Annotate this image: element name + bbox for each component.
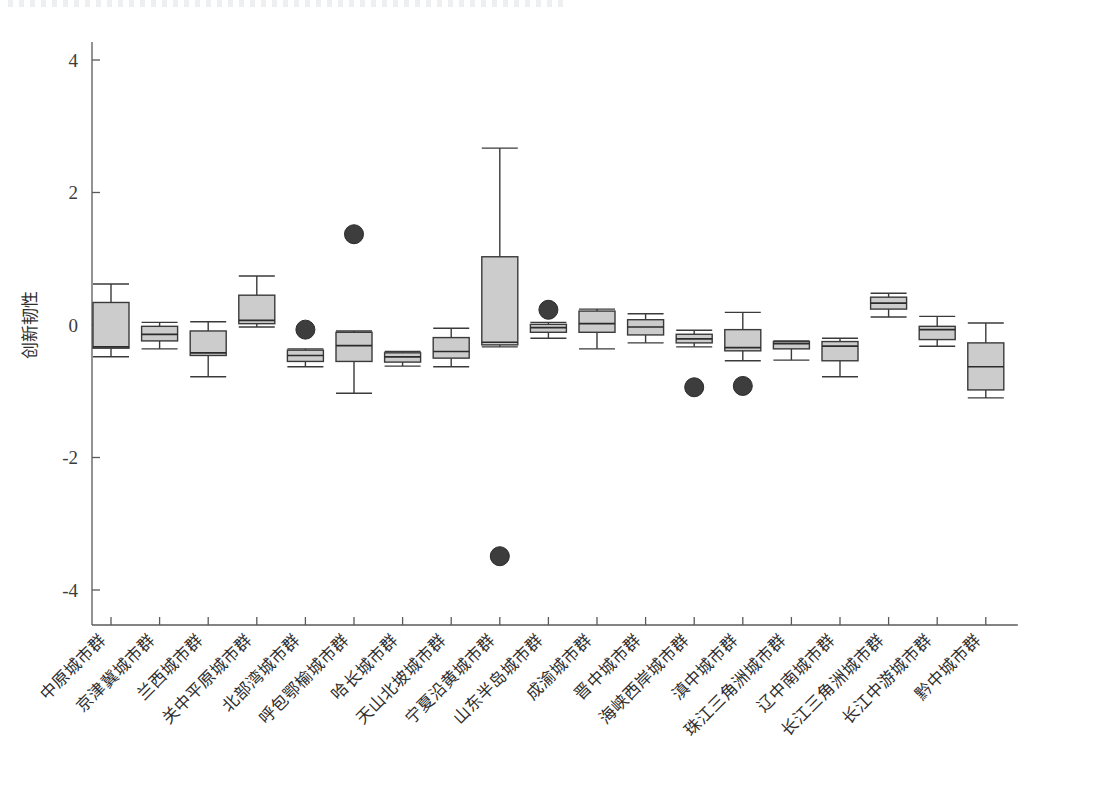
boxplot-group: [239, 276, 275, 625]
boxplot-group: [968, 323, 1004, 625]
outlier-point[interactable]: [685, 378, 704, 397]
outlier-point[interactable]: [345, 225, 364, 244]
y-tick-label: 2: [69, 182, 79, 203]
boxplot-group: [919, 316, 955, 625]
y-tick-label: 0: [69, 315, 79, 336]
boxplot-group: [676, 330, 712, 625]
boxplot-group: [773, 341, 809, 625]
outlier-point[interactable]: [539, 300, 558, 319]
box-iqr[interactable]: [482, 257, 518, 345]
y-axis-title: 创新韧性: [20, 291, 40, 359]
outlier-point[interactable]: [733, 376, 752, 395]
boxplot-group: [871, 293, 907, 625]
boxplot-group: [93, 284, 129, 625]
boxplot-group: [628, 314, 664, 625]
box-iqr[interactable]: [919, 326, 955, 339]
box-iqr[interactable]: [773, 342, 809, 349]
boxplot-group: [579, 309, 615, 625]
outlier-point[interactable]: [296, 320, 315, 339]
boxplot-group: [142, 322, 178, 625]
boxplot-group: [482, 148, 518, 625]
boxplot-chart: 420-2-4创新韧性中原城市群京津冀城市群兰西城市群关中平原城市群北部湾城市群…: [0, 0, 1105, 799]
y-tick-label: -4: [62, 580, 78, 601]
y-tick-label: -2: [62, 447, 78, 468]
outlier-point[interactable]: [490, 547, 509, 566]
boxplot-figure: 420-2-4创新韧性中原城市群京津冀城市群兰西城市群关中平原城市群北部湾城市群…: [0, 0, 1105, 799]
box-iqr[interactable]: [822, 342, 858, 361]
boxplot-group: [190, 322, 226, 625]
boxplot-group: [530, 300, 566, 625]
y-tick-label: 4: [69, 50, 79, 71]
boxplot-group: [725, 312, 761, 625]
boxplot-group: [287, 320, 323, 625]
boxplot-group: [433, 328, 469, 625]
boxplot-group: [822, 338, 858, 625]
boxplot-group: [336, 225, 372, 625]
plot-area: 420-2-4创新韧性中原城市群京津冀城市群兰西城市群关中平原城市群北部湾城市群…: [0, 0, 1105, 799]
box-iqr[interactable]: [336, 332, 372, 361]
box-iqr[interactable]: [433, 338, 469, 359]
box-iqr[interactable]: [579, 311, 615, 332]
box-iqr[interactable]: [190, 331, 226, 356]
box-iqr[interactable]: [239, 295, 275, 323]
box-iqr[interactable]: [93, 302, 129, 348]
boxplot-group: [385, 352, 421, 626]
